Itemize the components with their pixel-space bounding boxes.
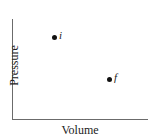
point-f-label: f xyxy=(114,71,117,83)
point-i-label: i xyxy=(59,29,62,41)
y-axis-label: Pressure xyxy=(7,36,22,96)
x-axis-label: Volume xyxy=(40,123,120,138)
point-i-marker xyxy=(52,35,57,40)
point-f-marker xyxy=(107,77,112,82)
x-axis-line xyxy=(12,119,148,120)
